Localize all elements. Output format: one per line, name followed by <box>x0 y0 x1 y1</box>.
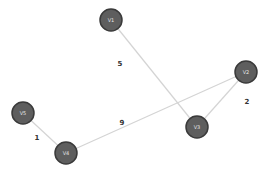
node-v4[interactable]: V4 <box>55 142 77 164</box>
edge-weight-v5-v4: 1 <box>35 134 40 142</box>
graph-canvas: 5 9 2 1 V1 V2 V3 V4 V5 <box>0 0 274 173</box>
node-v4-label: V4 <box>63 150 70 156</box>
node-v5-label: V5 <box>20 110 27 116</box>
edge-weight-v2-v3: 2 <box>245 98 250 106</box>
edge-v1-v3[interactable] <box>111 20 197 127</box>
node-v5[interactable]: V5 <box>12 102 34 124</box>
edge-weight-v1-v3: 5 <box>118 60 123 68</box>
node-v3[interactable]: V3 <box>186 116 208 138</box>
node-v2-label: V2 <box>243 69 250 75</box>
node-v3-label: V3 <box>194 124 201 130</box>
node-v2[interactable]: V2 <box>235 61 257 83</box>
edge-weight-v4-v2: 9 <box>120 119 125 127</box>
edge-v4-v2[interactable] <box>66 72 246 153</box>
node-v1[interactable]: V1 <box>100 9 122 31</box>
nodes-layer: V1 V2 V3 V4 V5 <box>12 9 257 164</box>
edge-weights-layer: 5 9 2 1 <box>35 60 250 142</box>
node-v1-label: V1 <box>108 17 115 23</box>
edges-layer <box>23 20 246 153</box>
